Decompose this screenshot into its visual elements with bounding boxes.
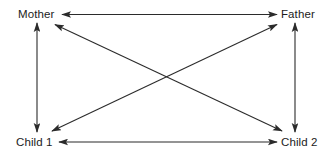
node-label-father: Father	[281, 8, 315, 21]
node-label-child-2: Child 2	[281, 136, 318, 149]
edge-father-child1	[52, 25, 277, 132]
node-label-mother: Mother	[18, 8, 54, 21]
diagram-canvas	[0, 0, 327, 154]
family-relationship-diagram: Mother Father Child 1 Child 2	[0, 0, 327, 154]
edge-mother-child2	[55, 25, 282, 132]
node-label-child-1: Child 1	[16, 136, 53, 149]
